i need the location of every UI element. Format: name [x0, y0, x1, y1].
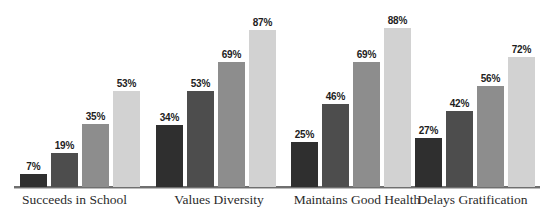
- bar-item[interactable]: 34%: [156, 109, 183, 187]
- category-label: Delays Gratification: [410, 192, 535, 208]
- bar-value-label: 46%: [313, 91, 359, 102]
- category-label: Succeeds in School: [12, 192, 137, 208]
- bar-item[interactable]: 42%: [446, 95, 473, 187]
- bar-value-label: 7%: [11, 161, 57, 172]
- bar-rect[interactable]: [51, 153, 78, 187]
- bar-rect[interactable]: [187, 91, 214, 187]
- bar-item[interactable]: 88%: [384, 12, 411, 187]
- bar-value-label: 34%: [147, 112, 193, 123]
- bar-group: 34%53%69%87%: [156, 0, 280, 187]
- bar-rect[interactable]: [113, 91, 140, 187]
- bar-item[interactable]: 72%: [508, 41, 535, 187]
- bar-item[interactable]: 19%: [51, 137, 78, 187]
- bar-rect[interactable]: [218, 62, 245, 187]
- bar-rect[interactable]: [477, 86, 504, 187]
- bar-item[interactable]: 69%: [353, 46, 380, 187]
- bar-value-label: 69%: [209, 49, 255, 60]
- bar-item[interactable]: 56%: [477, 70, 504, 187]
- bar-rect[interactable]: [446, 111, 473, 187]
- bar-group: 25%46%69%88%: [291, 0, 415, 187]
- bar-item[interactable]: 35%: [82, 108, 109, 187]
- bar-value-label: 35%: [73, 111, 119, 122]
- bar-rect[interactable]: [322, 104, 349, 187]
- bar-value-label: 25%: [282, 129, 328, 140]
- bar-value-label: 53%: [104, 78, 150, 89]
- bar-rect[interactable]: [508, 57, 535, 187]
- bar-group: 27%42%56%72%: [415, 0, 539, 187]
- bar-rect[interactable]: [20, 174, 47, 187]
- bar-value-label: 19%: [42, 140, 88, 151]
- bar-rect[interactable]: [249, 30, 276, 187]
- category-label: Values Diversity: [164, 192, 274, 208]
- bar-item[interactable]: 46%: [322, 88, 349, 187]
- bar-value-label: 88%: [375, 15, 421, 26]
- bar-rect[interactable]: [156, 125, 183, 187]
- bar-item[interactable]: 53%: [113, 75, 140, 187]
- bar-group: 7%19%35%53%: [20, 0, 144, 187]
- bar-rect[interactable]: [291, 142, 318, 187]
- bar-value-label: 87%: [240, 17, 286, 28]
- bar-chart: 7%19%35%53%34%53%69%87%25%46%69%88%27%42…: [0, 0, 551, 219]
- bar-rect[interactable]: [415, 138, 442, 187]
- bar-rect[interactable]: [353, 62, 380, 187]
- bar-item[interactable]: 87%: [249, 14, 276, 187]
- bar-value-label: 69%: [344, 49, 390, 60]
- bar-rect[interactable]: [384, 28, 411, 187]
- bar-item[interactable]: 69%: [218, 46, 245, 187]
- bar-value-label: 42%: [437, 98, 483, 109]
- bar-item[interactable]: 25%: [291, 126, 318, 187]
- bar-item[interactable]: 27%: [415, 122, 442, 187]
- bar-value-label: 53%: [178, 78, 224, 89]
- bar-item[interactable]: 7%: [20, 158, 47, 187]
- bar-value-label: 27%: [406, 125, 452, 136]
- bar-value-label: 72%: [499, 44, 545, 55]
- bar-value-label: 56%: [468, 73, 514, 84]
- bar-rect[interactable]: [82, 124, 109, 187]
- category-label: Maintains Good Health: [287, 192, 427, 208]
- bar-item[interactable]: 53%: [187, 75, 214, 187]
